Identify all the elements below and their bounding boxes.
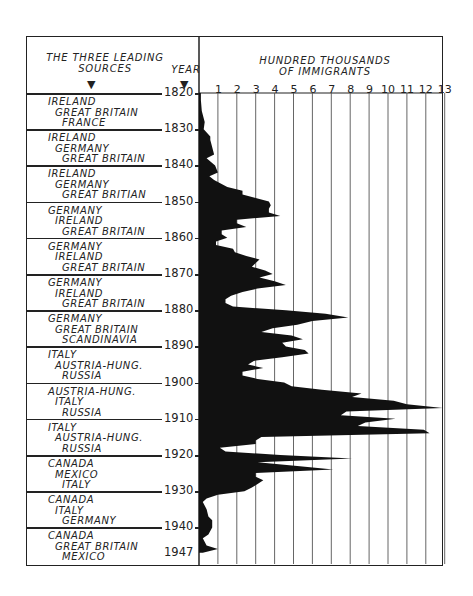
- immigration-area: [199, 93, 443, 553]
- immigration-area-plot: [0, 0, 473, 596]
